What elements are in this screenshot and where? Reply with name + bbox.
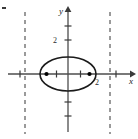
x-axis-label: x: [128, 76, 133, 86]
x-axis-tick-label-two: 2: [95, 78, 99, 87]
right-focus-dot: [87, 72, 91, 76]
figure-canvas: 2 2 y x: [0, 0, 138, 139]
ellipse-figure: 2 2 y x: [0, 0, 138, 139]
left-focus-dot: [44, 72, 48, 76]
y-axis-tick-label-two: 2: [53, 36, 57, 45]
y-axis-label: y: [58, 6, 63, 16]
y-axis-arrowhead: [65, 6, 72, 12]
corner-artifact-mark: [2, 7, 6, 9]
